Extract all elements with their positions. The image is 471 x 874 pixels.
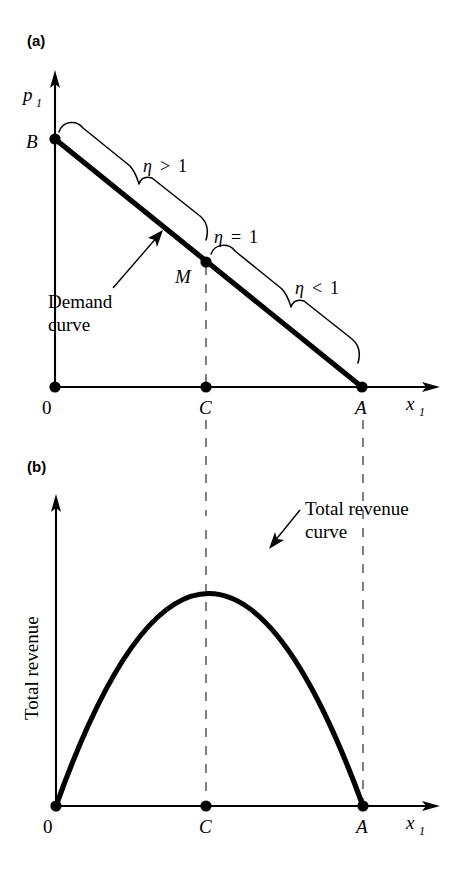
- point-b-label: B: [26, 131, 38, 152]
- panel-a-x-axis: [55, 382, 440, 392]
- panel-a: (a) p 1 x 1 B M 0 C A: [21, 32, 440, 419]
- total-revenue-label-line1: Total revenue: [305, 498, 409, 519]
- elasticity-label-greater: η>1: [143, 156, 187, 176]
- panel-a-x-axis-subscript: 1: [419, 405, 425, 419]
- point-m-label: M: [174, 266, 192, 287]
- panel-a-y-axis-label: p: [21, 84, 33, 105]
- origin-marker-a: [49, 381, 60, 392]
- demand-curve-leader: [113, 230, 163, 288]
- origin-label-a: 0: [42, 397, 52, 418]
- panel-a-x-axis-label: x: [405, 393, 415, 414]
- economics-figure-svg: (a) p 1 x 1 B M 0 C A: [0, 0, 471, 874]
- point-b-marker: [49, 133, 60, 144]
- elasticity-label-equal: η=1: [214, 227, 258, 247]
- eta-symbol-equal: η: [214, 227, 223, 247]
- point-c-marker-b: [200, 800, 211, 811]
- eta-relation-equal: =: [231, 227, 241, 247]
- point-c-label-a: C: [199, 397, 212, 418]
- eta-value-equal: 1: [249, 227, 258, 247]
- panel-b-x-axis: [56, 801, 440, 811]
- elasticity-label-less: η<1: [295, 278, 339, 298]
- elasticity-brace-less: [211, 245, 359, 363]
- origin-marker-b: [50, 800, 61, 811]
- eta-symbol-less: η: [295, 278, 304, 298]
- origin-label-b: 0: [43, 816, 53, 837]
- eta-relation-less: <: [312, 278, 322, 298]
- elasticity-brace-greater: [59, 122, 207, 240]
- panel-b-y-axis-label: Total revenue: [21, 616, 42, 720]
- panel-b-x-axis-label: x: [405, 812, 415, 833]
- total-revenue-leader: [269, 510, 300, 549]
- point-a-marker-b: [357, 800, 368, 811]
- panel-b-tag: (b): [27, 458, 46, 475]
- demand-curve-label-line1: Demand: [48, 291, 113, 312]
- eta-relation-greater: >: [160, 156, 170, 176]
- demand-curve-label-line2: curve: [48, 314, 90, 335]
- eta-value-greater: 1: [178, 156, 187, 176]
- eta-value-less: 1: [330, 278, 339, 298]
- eta-symbol-greater: η: [143, 156, 152, 176]
- point-c-marker-a: [200, 381, 211, 392]
- panel-b-x-axis-subscript: 1: [419, 824, 425, 838]
- point-m-marker: [200, 256, 211, 267]
- panel-b: (b) Total revenue x 1 0 C A Total revenu…: [21, 458, 440, 838]
- panel-a-tag: (a): [27, 32, 45, 49]
- point-c-label-b: C: [199, 816, 212, 837]
- figure-container: (a) p 1 x 1 B M 0 C A: [0, 0, 471, 874]
- point-a-marker-a: [356, 381, 367, 392]
- point-a-label-b: A: [354, 816, 368, 837]
- total-revenue-label-line2: curve: [305, 521, 347, 542]
- point-a-label-a: A: [353, 397, 367, 418]
- panel-a-y-axis-subscript: 1: [36, 96, 42, 110]
- panel-a-y-axis: [50, 70, 60, 387]
- total-revenue-curve: [56, 594, 363, 807]
- panel-b-y-axis: [51, 494, 61, 806]
